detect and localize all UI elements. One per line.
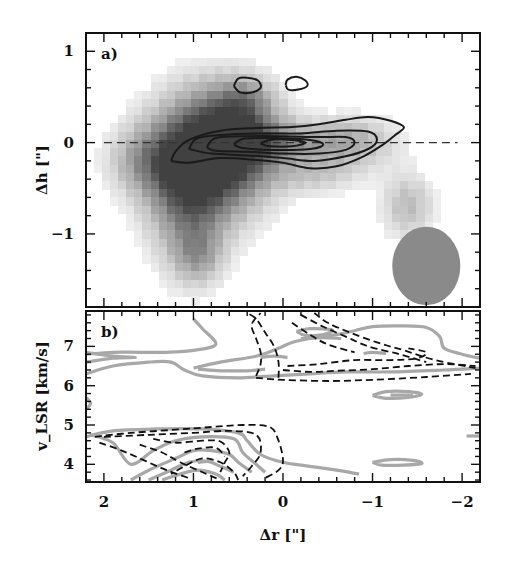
gray-pixel-618: [360, 140, 369, 149]
gray-contours-path-4: [198, 369, 265, 371]
gray-pixel-207: [183, 156, 192, 165]
gray-pixel-260: [199, 107, 208, 116]
gray-pixel-99: [151, 165, 160, 174]
gray-pixel-158: [167, 230, 176, 239]
gray-pixel-144: [167, 115, 176, 124]
gray-pixel-46: [126, 214, 135, 223]
gray-pixel-275: [199, 230, 208, 239]
gray-pixel-250: [191, 271, 200, 280]
gray-pixel-280: [199, 271, 208, 280]
gray-pixel-92: [151, 107, 160, 116]
gray-pixel-503: [279, 115, 288, 124]
gray-pixel-69: [142, 107, 151, 116]
gray-pixel-15: [110, 165, 119, 174]
gray-pixel-223: [183, 288, 192, 297]
gray-pixel-430: [247, 165, 256, 174]
gray-pixel-680: [400, 173, 409, 182]
gray-pixel-431: [247, 173, 256, 182]
gray-pixel-45: [126, 206, 135, 215]
gray-pixel-704: [416, 206, 425, 215]
gray-pixel-1: [94, 156, 103, 165]
gray-pixel-127: [159, 197, 168, 206]
gray-pixel-143: [167, 107, 176, 116]
gray-pixel-53: [134, 132, 143, 141]
gray-pixel-466: [263, 107, 272, 116]
gray-pixel-286: [207, 82, 216, 91]
gray-pixel-39: [126, 156, 135, 165]
gray-pixel-152: [167, 181, 176, 190]
gray-pixel-606: [352, 115, 361, 124]
gray-pixel-3: [102, 132, 111, 141]
gray-pixel-124: [159, 173, 168, 182]
gray-pixel-702: [416, 189, 425, 198]
gray-pixel-390: [231, 247, 240, 256]
gray-pixel-513: [279, 197, 288, 206]
gray-pixel-674: [392, 230, 401, 239]
gray-pixel-416: [239, 247, 248, 256]
gray-pixel-196: [183, 66, 192, 75]
gray-pixel-328: [215, 189, 224, 198]
panel-b-xtick-label: 2: [99, 493, 109, 511]
gray-pixel-455: [255, 189, 264, 198]
gray-pixel-614: [352, 181, 361, 190]
gray-pixel-225: [191, 66, 200, 75]
gray-pixel-409: [239, 189, 248, 198]
gray-pixel-165: [167, 288, 176, 297]
gray-pixel-219: [183, 255, 192, 264]
gray-pixel-107: [151, 230, 160, 239]
gray-pixel-423: [247, 107, 256, 116]
gray-pixel-717: [433, 214, 442, 223]
gray-pixel-492: [271, 165, 280, 174]
gray-pixel-424: [247, 115, 256, 124]
gray-pixel-694: [408, 197, 417, 206]
gray-pixel-364: [223, 255, 232, 264]
gray-pixel-711: [425, 206, 434, 215]
gray-pixel-354: [223, 173, 232, 182]
gray-pixel-385: [231, 206, 240, 215]
gray-pixel-308: [207, 263, 216, 272]
gray-pixel-532: [296, 123, 305, 132]
gray-pixel-33: [126, 107, 135, 116]
gray-pixel-464: [263, 91, 272, 100]
gray-pixel-552: [312, 107, 321, 116]
gray-contours-path-5: [261, 356, 288, 357]
panel-b-xtick-label: −1: [361, 493, 384, 511]
gray-pixel-76: [142, 165, 151, 174]
gray-pixel-27: [118, 173, 127, 182]
gray-pixel-642: [376, 189, 385, 198]
gray-pixel-87: [142, 255, 151, 264]
gray-pixel-242: [191, 206, 200, 215]
gray-pixel-203: [183, 123, 192, 132]
gray-pixel-272: [199, 206, 208, 215]
gray-pixel-350: [223, 140, 232, 149]
gray-pixel-389: [231, 239, 240, 248]
gray-pixel-541: [304, 107, 313, 116]
gray-pixel-64: [134, 222, 143, 231]
gray-pixel-679: [400, 165, 409, 174]
gray-contours-path-7: [301, 338, 341, 339]
panel-b-label: b): [101, 323, 119, 341]
gray-pixel-631: [368, 173, 377, 182]
gray-pixel-446: [255, 115, 264, 124]
gray-pixel-183: [175, 197, 184, 206]
gray-pixel-67: [142, 91, 151, 100]
gray-pixel-167: [175, 66, 184, 75]
gray-pixel-28: [118, 181, 127, 190]
gray-pixel-240: [191, 189, 200, 198]
gray-pixel-396: [239, 82, 248, 91]
gray-pixel-163: [167, 271, 176, 280]
gray-pixel-36: [126, 132, 135, 141]
panel-b-ytick-label: 6: [64, 377, 74, 395]
gray-pixel-617: [360, 132, 369, 141]
gray-pixel-243: [191, 214, 200, 223]
gray-pixel-458: [255, 214, 264, 223]
gray-pixel-138: [167, 66, 176, 75]
gray-pixel-172: [175, 107, 184, 116]
gray-pixel-500: [279, 91, 288, 100]
gray-pixel-509: [279, 165, 288, 174]
x-axis-label: Δr ["]: [260, 526, 307, 544]
gray-pixel-681: [400, 181, 409, 190]
gray-pixel-97: [151, 148, 160, 157]
gray-pixel-692: [408, 181, 417, 190]
gray-pixel-166: [175, 58, 184, 67]
